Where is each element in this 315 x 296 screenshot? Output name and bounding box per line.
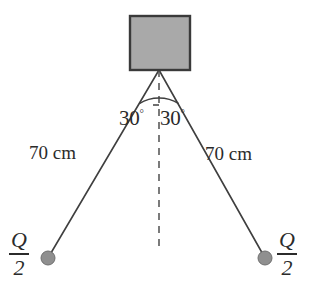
degree-symbol-left: °: [140, 107, 144, 119]
degree-symbol-right: °: [181, 107, 185, 119]
length-label-left: 70 cm: [29, 143, 76, 162]
length-label-right: 70 cm: [205, 144, 252, 163]
angle-label-right-value: 30: [160, 106, 181, 130]
charge-ball-left: [41, 251, 55, 265]
charge-ball-right: [258, 251, 272, 265]
angle-label-left-value: 30: [119, 106, 140, 130]
charge-left-denominator: 2: [9, 256, 29, 279]
angle-label-left: 30°: [119, 108, 144, 129]
support-block: [130, 16, 190, 70]
charge-label-right: Q 2: [277, 229, 297, 280]
charge-right-denominator: 2: [277, 256, 297, 279]
physics-diagram: 30° 30° 70 cm 70 cm Q 2 Q 2: [0, 0, 315, 296]
charge-right-numerator: Q: [277, 229, 297, 252]
angle-label-right: 30°: [160, 108, 185, 129]
charge-left-numerator: Q: [9, 229, 29, 252]
string-left: [48, 70, 159, 258]
string-right: [159, 70, 265, 258]
charge-label-left: Q 2: [9, 229, 29, 280]
